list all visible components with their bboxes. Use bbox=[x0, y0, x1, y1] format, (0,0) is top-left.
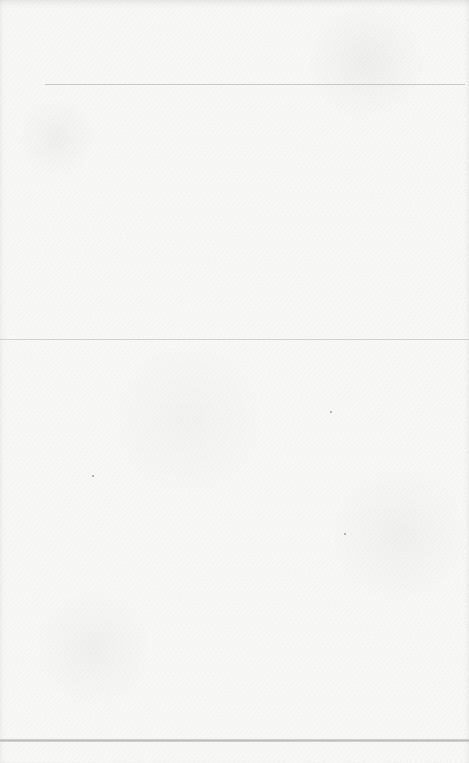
paper-speck bbox=[344, 533, 346, 535]
middle-horizontal-rule bbox=[0, 339, 469, 340]
paper-speck bbox=[330, 411, 332, 413]
top-horizontal-rule bbox=[45, 84, 465, 85]
paper-speck bbox=[92, 475, 94, 477]
paper-page bbox=[0, 0, 469, 763]
bottom-horizontal-rule bbox=[0, 739, 469, 742]
